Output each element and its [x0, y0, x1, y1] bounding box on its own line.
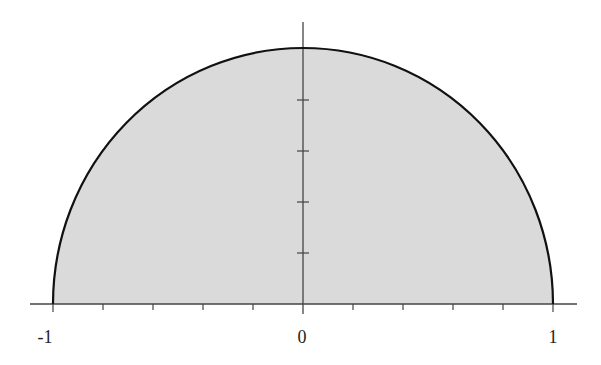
- x-label-neg1: -1: [38, 327, 53, 347]
- x-label-1: 1: [549, 327, 558, 347]
- x-label-0: 0: [298, 327, 307, 347]
- semicircle-chart: -1 0 1: [0, 0, 601, 365]
